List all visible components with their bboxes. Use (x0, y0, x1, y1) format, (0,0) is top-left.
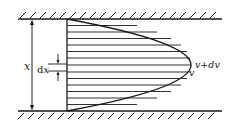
arrow-up-icon (57, 71, 60, 75)
height-dimension (30, 20, 34, 111)
top-wall (18, 12, 222, 19)
arrow-down-icon (30, 105, 34, 111)
dx-dimension (48, 54, 67, 81)
arrow-down-icon (57, 60, 60, 64)
arrow-up-icon (30, 20, 34, 26)
bottom-wall (18, 111, 222, 119)
dx-label: dx (37, 64, 49, 75)
velocity-label: v (189, 67, 195, 78)
hatch-lines (67, 26, 191, 105)
height-label: x (24, 60, 31, 73)
velocity-profile-diagram: x dx v+dv v (0, 0, 237, 131)
velocity-plus-dv-label: v+dv (195, 59, 220, 70)
